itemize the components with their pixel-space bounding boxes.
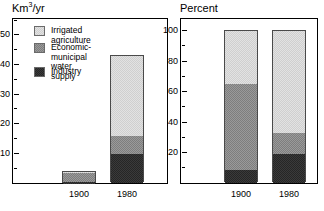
y-tick-minor bbox=[182, 167, 185, 168]
superscript-three: 3 bbox=[29, 1, 33, 8]
bar-segment-irrigated-agriculture bbox=[63, 172, 95, 173]
y-tick-minor bbox=[14, 108, 17, 109]
legend-item: Industry bbox=[34, 67, 81, 77]
legend-item-label: Industry bbox=[51, 67, 81, 77]
bar-segment-economic-municipal bbox=[63, 173, 95, 182]
y-tick-minor bbox=[14, 168, 17, 169]
stacked-bar bbox=[272, 30, 306, 182]
legend-swatch-light bbox=[34, 26, 45, 36]
y-tick-label: 80 bbox=[158, 57, 178, 66]
y-tick-minor bbox=[14, 79, 17, 80]
y-tick-label: 100 bbox=[158, 26, 178, 35]
x-tick-label: 1980 bbox=[96, 190, 158, 199]
bar-segment-industry bbox=[63, 182, 95, 183]
y-tick-major bbox=[182, 61, 187, 62]
bar-segment-industry bbox=[225, 170, 257, 184]
stacked-bar bbox=[62, 171, 96, 183]
chart-title-volume: Km3/yr bbox=[12, 3, 45, 14]
stacked-bar bbox=[110, 55, 144, 182]
y-tick-label: 10 bbox=[0, 149, 10, 158]
y-tick-major bbox=[14, 123, 19, 124]
y-tick-label: 40 bbox=[158, 118, 178, 127]
y-tick-minor bbox=[182, 106, 185, 107]
y-tick-major bbox=[14, 64, 19, 65]
bar-segment-industry bbox=[111, 154, 143, 184]
bar-segment-irrigated-agriculture bbox=[111, 56, 143, 136]
legend-swatch-medium bbox=[34, 43, 45, 53]
y-tick-major bbox=[182, 30, 187, 31]
y-tick-label: 40 bbox=[0, 60, 10, 69]
y-tick-minor bbox=[14, 49, 17, 50]
x-tick-label: 1980 bbox=[258, 190, 320, 199]
stacked-bar bbox=[224, 30, 258, 182]
y-tick-minor bbox=[182, 76, 185, 77]
bar-segment-economic-municipal bbox=[225, 84, 257, 169]
bar-segment-irrigated-agriculture bbox=[273, 31, 305, 133]
bar-segment-irrigated-agriculture bbox=[225, 31, 257, 84]
y-tick-label: 30 bbox=[0, 90, 10, 99]
y-tick-major bbox=[182, 152, 187, 153]
y-tick-label: 50 bbox=[0, 30, 10, 39]
y-tick-major bbox=[182, 91, 187, 92]
y-tick-label: 20 bbox=[0, 119, 10, 128]
chart-panel-percent: Percent 20406080100 19001980 bbox=[172, 0, 324, 211]
chart-title-percent: Percent bbox=[180, 3, 218, 14]
legend-swatch-dark bbox=[34, 67, 45, 77]
y-tick-minor bbox=[182, 45, 185, 46]
y-tick-minor bbox=[14, 138, 17, 139]
y-tick-major bbox=[14, 94, 19, 95]
y-tick-major bbox=[14, 153, 19, 154]
y-tick-minor bbox=[14, 20, 17, 21]
chart-panel-volume: Km3/yr 1020304050 19001980 Irrigated agr… bbox=[0, 0, 172, 211]
y-tick-major bbox=[182, 122, 187, 123]
y-tick-major bbox=[14, 34, 19, 35]
y-tick-label: 20 bbox=[158, 148, 178, 157]
y-tick-minor bbox=[182, 137, 185, 138]
bar-segment-industry bbox=[273, 154, 305, 183]
bar-segment-economic-municipal bbox=[273, 133, 305, 154]
bar-segment-economic-municipal bbox=[111, 136, 143, 154]
y-tick-label: 60 bbox=[158, 87, 178, 96]
